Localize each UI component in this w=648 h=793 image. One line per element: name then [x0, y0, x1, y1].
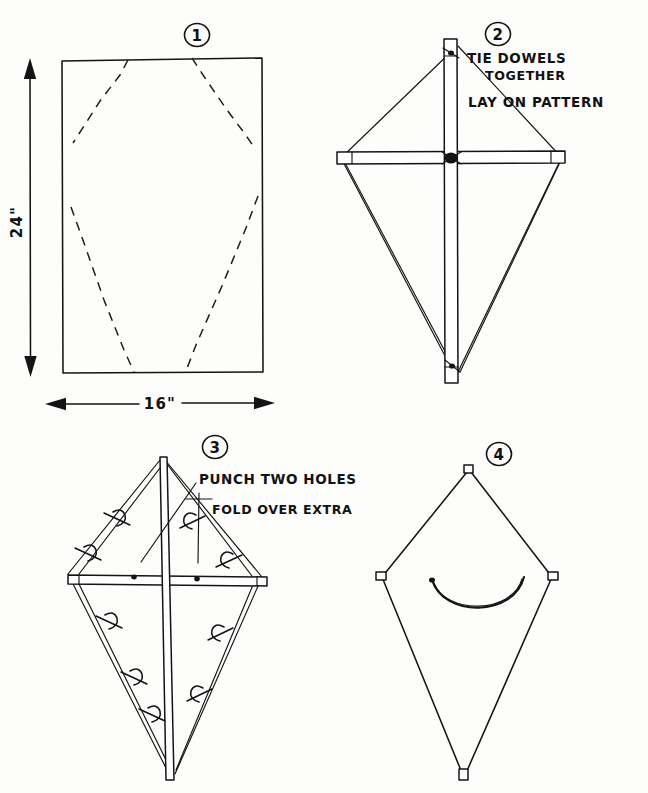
- dowel-vertical: [444, 39, 458, 383]
- note-lay-on-pattern: LAY ON PATTERN: [468, 94, 604, 110]
- note-lay-on-pattern-label: LAY ON PATTERN: [468, 94, 604, 110]
- note-tie-dowels: TIE DOWELS TOGETHER: [467, 50, 566, 83]
- fold-tabs-lower-left: [96, 613, 165, 722]
- note-tie-dowels-line1: TIE DOWELS: [467, 50, 566, 66]
- step-number-1: 1: [185, 24, 210, 47]
- dowel-vertical: [160, 457, 174, 780]
- corner-cap-right: [548, 572, 558, 580]
- step-number-2: 2: [486, 23, 511, 46]
- corner-cap-left: [376, 572, 386, 580]
- fold-tabs-lower-right: [187, 625, 233, 702]
- step-number-4-label: 4: [493, 446, 504, 464]
- corner-cap-top: [464, 465, 473, 473]
- step-number-3: 3: [203, 436, 228, 459]
- instruction-sheet: 1 24": [0, 0, 648, 793]
- dimension-height-label: 24": [8, 206, 26, 238]
- bridle-string: [429, 577, 524, 608]
- paper-rectangle: [62, 58, 263, 373]
- corner-cap-bottom: [459, 769, 468, 780]
- dimension-width: 16": [45, 395, 275, 413]
- dimension-width-label: 16": [144, 395, 176, 413]
- dimension-height: 24": [8, 58, 37, 377]
- step-number-3-label: 3: [209, 439, 220, 457]
- leader-lines-punch: [141, 483, 212, 563]
- note-tie-dowels-line2: TOGETHER: [485, 68, 565, 83]
- panel-4-finished-kite: 4: [324, 425, 648, 793]
- cut-line-dashed: [71, 58, 258, 372]
- panel-1-cut-pattern: 1 24": [0, 0, 324, 430]
- step-number-1-label: 1: [191, 27, 202, 45]
- step-number-4: 4: [487, 443, 512, 466]
- kite-body-outline: [382, 472, 552, 773]
- panel-3-fold-and-string: 3: [0, 425, 324, 793]
- panel-2-tie-dowels: 2: [324, 0, 648, 430]
- step-number-2-label: 2: [492, 26, 503, 44]
